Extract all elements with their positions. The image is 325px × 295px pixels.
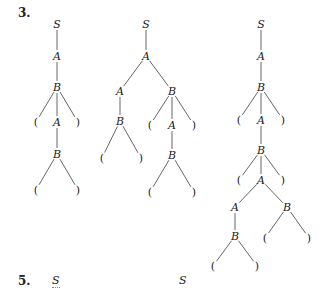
nonterminal-node-b: B bbox=[167, 149, 176, 162]
edges-layer bbox=[39, 30, 306, 261]
terminal-node: ) bbox=[76, 184, 80, 197]
tree-edge bbox=[153, 96, 168, 120]
nodes-layer: SAB(A)B()SAABB()(A)B()SAB(A)B(A)ABB()() bbox=[34, 18, 311, 273]
tree-edge bbox=[239, 184, 257, 202]
tree-edge bbox=[60, 159, 75, 185]
tree-edge bbox=[153, 160, 169, 187]
terminal-node: ( bbox=[34, 116, 38, 129]
terminal-node: ( bbox=[34, 184, 38, 197]
tree-3-nodes: SAB(A)B(A)ABB()() bbox=[211, 18, 311, 273]
tree-edge bbox=[123, 126, 138, 153]
nonterminal-node-a: A bbox=[256, 174, 265, 187]
terminal-node: ( bbox=[100, 152, 104, 165]
terminal-node: ) bbox=[255, 260, 259, 273]
nonterminal-node-b: B bbox=[256, 144, 265, 157]
nonterminal-node-b: B bbox=[230, 230, 239, 243]
terminal-node: ( bbox=[237, 114, 241, 127]
nonterminal-node-s: S bbox=[142, 18, 150, 31]
nonterminal-node-a: A bbox=[256, 114, 265, 127]
terminal-node: ) bbox=[281, 174, 285, 187]
parse-tree-diagram: SAB(A)B()SAABB()(A)B()SAB(A)B(A)ABB()() bbox=[0, 0, 325, 295]
terminal-node: ( bbox=[148, 186, 152, 199]
nonterminal-node-a: A bbox=[230, 201, 239, 214]
tree-edge bbox=[243, 155, 258, 175]
terminal-node: ) bbox=[192, 186, 196, 199]
nonterminal-node-a: A bbox=[115, 85, 124, 98]
terminal-node: ( bbox=[211, 260, 215, 273]
nonterminal-node-a: A bbox=[141, 50, 150, 63]
terminal-node: ) bbox=[192, 119, 196, 132]
nonterminal-node-s: S bbox=[257, 18, 265, 31]
tree-edge bbox=[291, 212, 306, 233]
terminal-node: ( bbox=[263, 232, 267, 245]
nonterminal-node-b: B bbox=[52, 148, 61, 161]
nonterminal-node-s: S bbox=[53, 18, 61, 31]
terminal-node: ( bbox=[148, 119, 152, 132]
tree-edge bbox=[60, 92, 75, 117]
tree-edge bbox=[105, 126, 118, 152]
tree-edge bbox=[175, 160, 191, 187]
tree-edge bbox=[39, 159, 54, 185]
terminal-node: ) bbox=[307, 232, 311, 245]
nonterminal-node-a: A bbox=[52, 50, 61, 63]
tree-edge bbox=[239, 241, 254, 261]
tree-edge bbox=[269, 212, 284, 233]
terminal-node: ) bbox=[139, 152, 143, 165]
nonterminal-node-b: B bbox=[115, 115, 124, 128]
tree-edge bbox=[124, 61, 143, 86]
nonterminal-node-b: B bbox=[282, 201, 291, 214]
tree-edge bbox=[150, 61, 169, 86]
nonterminal-node-b: B bbox=[256, 81, 265, 94]
tree-edge bbox=[265, 184, 283, 202]
nonterminal-node-a: A bbox=[52, 116, 61, 129]
tree-edge bbox=[175, 96, 190, 120]
nonterminal-node-b: B bbox=[52, 81, 61, 94]
tree-edge bbox=[217, 241, 232, 261]
tree-edge bbox=[265, 155, 280, 175]
terminal-node: ) bbox=[281, 114, 285, 127]
nonterminal-node-a: A bbox=[256, 50, 265, 63]
terminal-node: ) bbox=[76, 116, 80, 129]
tree-edge bbox=[264, 92, 279, 115]
tree-edge bbox=[39, 92, 54, 117]
nonterminal-node-a: A bbox=[167, 119, 176, 132]
terminal-node: ( bbox=[237, 174, 241, 187]
nonterminal-node-b: B bbox=[167, 85, 176, 98]
tree-edge bbox=[242, 92, 257, 115]
